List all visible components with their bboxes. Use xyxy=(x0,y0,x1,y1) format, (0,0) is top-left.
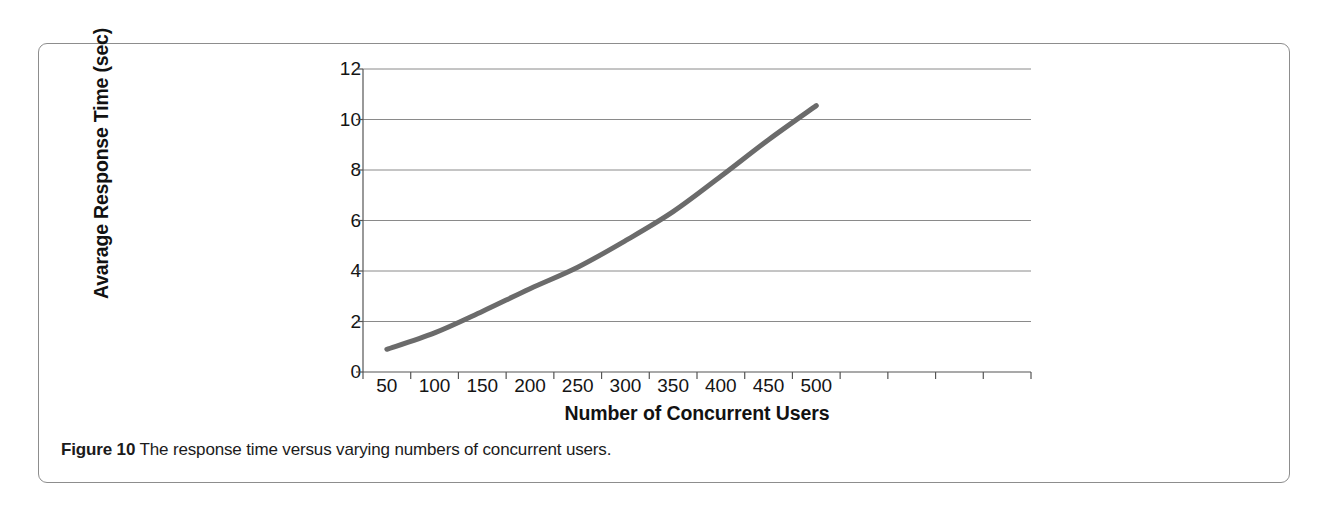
figure-caption: Figure 10 The response time versus varyi… xyxy=(61,439,1269,460)
series-line-average-response-time xyxy=(387,106,816,350)
y-tick-label: 0 xyxy=(325,361,361,383)
y-tick-label: 4 xyxy=(325,260,361,282)
y-axis-tick-labels: 024681012 xyxy=(325,44,361,429)
figure-caption-label: Figure 10 xyxy=(61,440,135,459)
y-tick-label: 2 xyxy=(325,311,361,333)
x-axis-tick-labels: 50100150200250300350400450500 xyxy=(363,375,1031,401)
plot-svg xyxy=(363,69,1031,372)
y-tick-label: 6 xyxy=(325,210,361,232)
figure-panel: Avarage Response Time (sec) 024681012 50… xyxy=(38,43,1290,483)
y-tick-label: 10 xyxy=(325,109,361,131)
y-tick-label: 8 xyxy=(325,159,361,181)
y-axis-title: Avarage Response Time (sec) xyxy=(90,14,113,314)
x-tick-label: 500 xyxy=(788,375,844,397)
plot-area xyxy=(363,69,1031,372)
x-axis-title: Number of Concurrent Users xyxy=(363,402,1031,425)
chart: Avarage Response Time (sec) 024681012 50… xyxy=(39,44,1291,429)
y-tick-label: 12 xyxy=(325,58,361,80)
figure-caption-text: The response time versus varying numbers… xyxy=(140,440,612,459)
